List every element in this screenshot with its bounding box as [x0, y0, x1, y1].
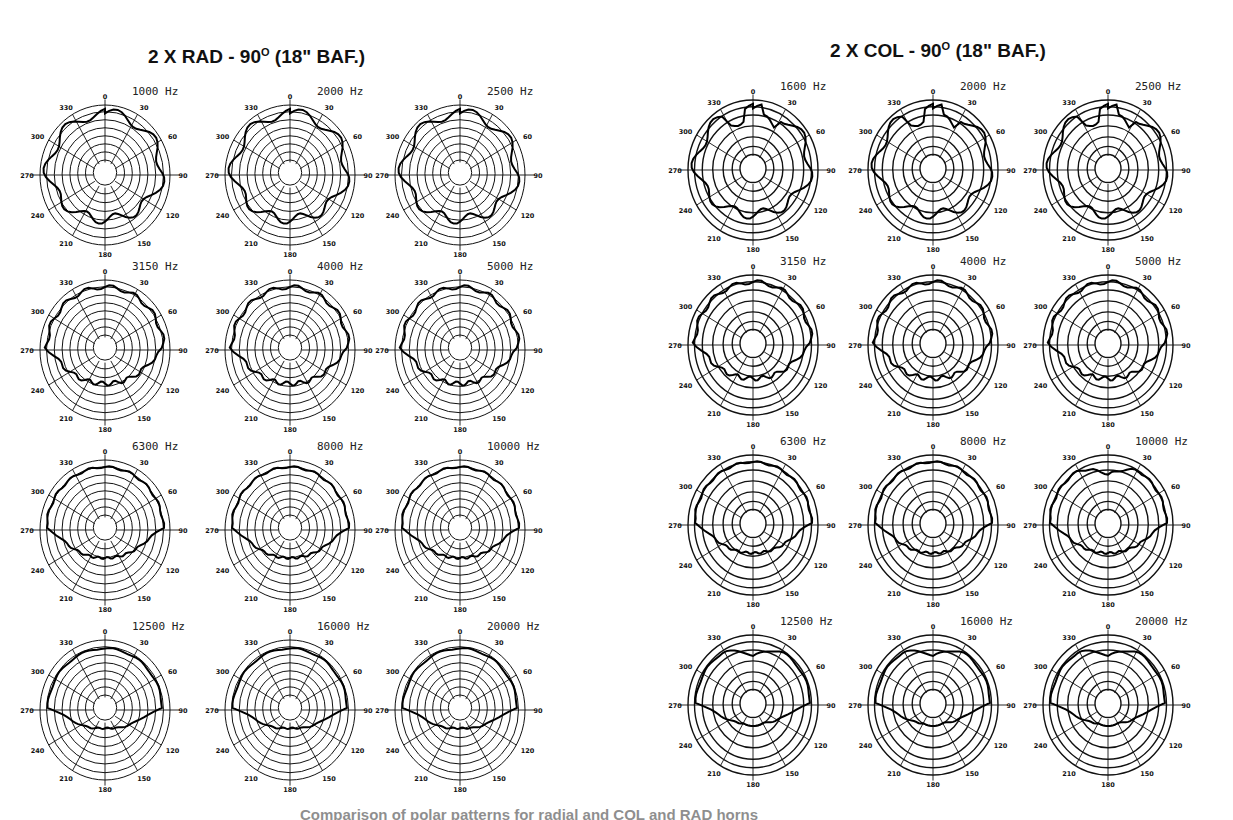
- svg-text:330: 330: [59, 104, 73, 112]
- svg-text:180: 180: [926, 601, 940, 609]
- svg-text:330: 330: [59, 459, 73, 467]
- svg-text:90: 90: [178, 172, 188, 180]
- svg-text:210: 210: [707, 410, 721, 418]
- svg-text:30: 30: [494, 279, 504, 287]
- svg-text:180: 180: [283, 251, 297, 259]
- svg-text:150: 150: [1140, 410, 1154, 418]
- svg-text:300: 300: [1034, 303, 1048, 311]
- svg-text:270: 270: [668, 702, 682, 710]
- svg-text:300: 300: [859, 303, 873, 311]
- svg-text:120: 120: [814, 207, 828, 215]
- svg-text:330: 330: [887, 454, 901, 462]
- svg-text:30: 30: [139, 104, 149, 112]
- svg-text:150: 150: [785, 590, 799, 598]
- svg-text:30: 30: [324, 104, 334, 112]
- svg-text:60: 60: [523, 668, 533, 676]
- polar-chart-icon: 0306090120150180210240270300330: [205, 260, 395, 445]
- svg-text:240: 240: [216, 387, 230, 395]
- polar-chart-icon: 0306090120150180210240270300330: [668, 615, 858, 800]
- svg-text:330: 330: [414, 459, 428, 467]
- svg-text:270: 270: [1023, 167, 1037, 175]
- svg-text:270: 270: [1023, 522, 1037, 530]
- polar-chart-icon: 0306090120150180210240270300330: [375, 85, 565, 270]
- svg-text:30: 30: [324, 279, 334, 287]
- svg-text:150: 150: [137, 240, 151, 248]
- svg-text:300: 300: [216, 308, 230, 316]
- polar-chart-icon: 0306090120150180210240270300330: [20, 260, 210, 445]
- svg-text:90: 90: [1006, 342, 1016, 350]
- svg-text:270: 270: [205, 347, 219, 355]
- svg-text:30: 30: [787, 634, 797, 642]
- svg-text:30: 30: [494, 459, 504, 467]
- svg-text:60: 60: [168, 308, 178, 316]
- svg-text:120: 120: [994, 562, 1008, 570]
- svg-text:150: 150: [137, 595, 151, 603]
- svg-text:300: 300: [386, 308, 400, 316]
- svg-text:150: 150: [322, 415, 336, 423]
- svg-text:0: 0: [931, 443, 936, 451]
- svg-text:270: 270: [375, 707, 389, 715]
- svg-text:300: 300: [386, 668, 400, 676]
- svg-text:300: 300: [216, 488, 230, 496]
- svg-text:240: 240: [679, 562, 693, 570]
- polar-plot-col-12: 20000 Hz0306090120150180210240270300330: [1023, 615, 1213, 800]
- svg-text:60: 60: [816, 483, 826, 491]
- svg-text:90: 90: [363, 347, 373, 355]
- svg-text:120: 120: [1169, 382, 1183, 390]
- svg-text:120: 120: [521, 387, 535, 395]
- svg-text:210: 210: [887, 235, 901, 243]
- svg-text:60: 60: [1171, 483, 1181, 491]
- svg-text:180: 180: [453, 251, 467, 259]
- svg-text:240: 240: [31, 387, 45, 395]
- svg-text:150: 150: [785, 410, 799, 418]
- svg-text:180: 180: [453, 426, 467, 434]
- polar-chart-icon: 0306090120150180210240270300330: [848, 615, 1038, 800]
- polar-chart-icon: 0306090120150180210240270300330: [668, 255, 858, 440]
- svg-text:330: 330: [414, 639, 428, 647]
- svg-text:240: 240: [679, 742, 693, 750]
- polar-plot-col-4: 3150 Hz0306090120150180210240270300330: [668, 255, 858, 440]
- svg-text:210: 210: [887, 590, 901, 598]
- svg-text:300: 300: [1034, 663, 1048, 671]
- svg-text:0: 0: [458, 268, 463, 276]
- svg-text:210: 210: [244, 240, 258, 248]
- polar-chart-icon: 0306090120150180210240270300330: [1023, 435, 1213, 620]
- svg-text:330: 330: [244, 104, 258, 112]
- svg-text:120: 120: [521, 212, 535, 220]
- svg-text:0: 0: [288, 448, 293, 456]
- svg-text:210: 210: [59, 775, 73, 783]
- svg-text:330: 330: [59, 639, 73, 647]
- polar-plot-rad-2: 2000 Hz0306090120150180210240270300330: [205, 85, 395, 270]
- svg-text:120: 120: [166, 387, 180, 395]
- svg-text:30: 30: [324, 459, 334, 467]
- polar-plot-col-6: 5000 Hz0306090120150180210240270300330: [1023, 255, 1213, 440]
- svg-text:90: 90: [178, 707, 188, 715]
- svg-text:60: 60: [1171, 303, 1181, 311]
- svg-text:240: 240: [859, 562, 873, 570]
- svg-text:240: 240: [386, 567, 400, 575]
- svg-text:330: 330: [414, 104, 428, 112]
- svg-text:300: 300: [386, 133, 400, 141]
- title-text: 2 X RAD - 90: [148, 46, 261, 67]
- svg-text:60: 60: [523, 488, 533, 496]
- svg-text:300: 300: [386, 488, 400, 496]
- svg-text:150: 150: [785, 235, 799, 243]
- svg-text:210: 210: [414, 595, 428, 603]
- svg-text:240: 240: [31, 212, 45, 220]
- svg-text:30: 30: [787, 99, 797, 107]
- svg-text:300: 300: [1034, 483, 1048, 491]
- svg-text:240: 240: [216, 747, 230, 755]
- svg-text:150: 150: [785, 770, 799, 778]
- svg-text:120: 120: [814, 742, 828, 750]
- svg-text:330: 330: [59, 279, 73, 287]
- polar-plot-col-11: 16000 Hz0306090120150180210240270300330: [848, 615, 1038, 800]
- svg-text:60: 60: [1171, 663, 1181, 671]
- svg-text:150: 150: [492, 775, 506, 783]
- svg-text:180: 180: [746, 601, 760, 609]
- svg-text:180: 180: [926, 781, 940, 789]
- svg-text:120: 120: [994, 382, 1008, 390]
- svg-text:180: 180: [746, 246, 760, 254]
- svg-text:300: 300: [679, 128, 693, 136]
- svg-text:120: 120: [351, 212, 365, 220]
- svg-text:150: 150: [322, 595, 336, 603]
